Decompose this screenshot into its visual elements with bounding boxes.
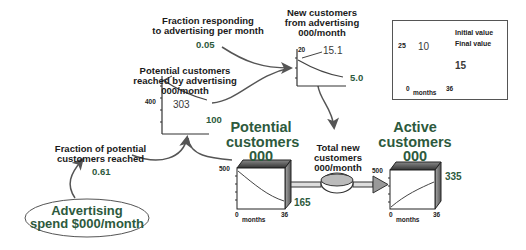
- active-stock-xmin: 0: [389, 211, 393, 218]
- fraction-responding-value: 0.05: [196, 39, 215, 50]
- legend-initial-label: Initial value: [455, 29, 493, 36]
- new-customers-initial: 15.1: [323, 45, 342, 56]
- flow-pipe: [291, 173, 388, 193]
- potential-reached-ymax: 400: [145, 98, 156, 105]
- potential-reached-label: Potential customers reached by advertisi…: [130, 66, 240, 96]
- fraction-reached-value: 0.61: [92, 166, 111, 177]
- legend-x-max: 36: [446, 85, 453, 92]
- potential-stock-ymax: 500: [219, 165, 230, 172]
- active-stock-final: 335: [445, 171, 462, 182]
- potential-stock-xmin: 0: [235, 211, 239, 218]
- potential-stock-final: 165: [294, 197, 311, 208]
- legend-final-label: Final value: [455, 40, 491, 47]
- potential-stock-label: Potential customers 000: [226, 120, 296, 164]
- potential-reached-initial: 303: [173, 99, 190, 110]
- arrow-new-to-flow: [318, 86, 334, 127]
- arrow-fraction-to-new: [222, 47, 290, 68]
- stock-active-box: [388, 162, 441, 209]
- legend-x-label: months: [413, 89, 436, 96]
- active-stock-xlabel: months: [396, 216, 419, 223]
- new-customers-label: New customers from advertising 000/month: [280, 8, 364, 38]
- legend-x-min: 0: [406, 85, 410, 92]
- fraction-reached-label: Fraction of potential customers reached: [48, 144, 153, 164]
- new-customers-ymax: 20: [298, 46, 305, 53]
- advertising-spend-label: Advertising spend $000/month: [27, 204, 147, 230]
- arrow-adv-to-fraction: [70, 160, 82, 198]
- fraction-responding-label: Fraction responding to advertising per m…: [148, 16, 268, 36]
- active-stock-xmax: 36: [433, 211, 440, 218]
- potential-reached-final: 100: [206, 114, 222, 125]
- new-customers-final: 5.0: [350, 72, 363, 83]
- legend-initial-value: 10: [418, 41, 429, 52]
- stock-potential-box: [235, 160, 291, 209]
- legend-y-max: 25: [398, 42, 406, 49]
- potential-stock-xlabel: months: [242, 216, 265, 223]
- legend-final-value: 15: [455, 60, 466, 71]
- active-stock-ymax: 500: [372, 167, 383, 174]
- total-new-flow-label: Total new customers 000/month: [306, 143, 370, 173]
- active-stock-label: Active customers 000: [378, 120, 452, 164]
- potential-stock-xmax: 36: [281, 211, 288, 218]
